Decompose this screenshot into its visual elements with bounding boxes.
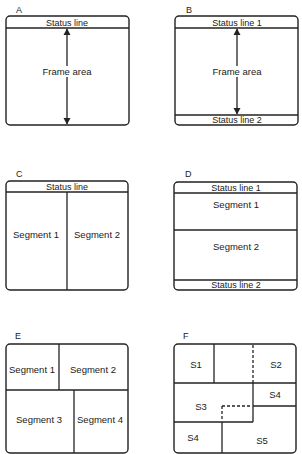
segment-1: Segment 1 (9, 364, 55, 375)
segment-s4-right: S4 (269, 389, 281, 400)
segment-3: Segment 3 (16, 414, 62, 425)
panel-label: B (186, 5, 192, 15)
segment-s4-bottom: S4 (187, 432, 199, 443)
panel-b: B B Status line 1 Status line 2 Frame ar… (175, 5, 298, 125)
segment-4: Segment 4 (77, 414, 123, 425)
frame-area-label: Frame area (212, 66, 262, 77)
status-line-2: Status line 2 (212, 115, 262, 125)
segment-2: Segment 2 (213, 241, 259, 252)
panel-label: D (185, 169, 192, 179)
arrow-up-icon (234, 29, 241, 36)
panel-d: D Status line 1 Segment 1 Segment 2 Stat… (174, 169, 297, 290)
segment-s3: S3 (195, 401, 207, 412)
segment-s2: S2 (270, 359, 282, 370)
segment-s1: S1 (190, 359, 202, 370)
status-line-1: Status line 1 (211, 183, 261, 193)
panel-label: F (183, 331, 189, 341)
panel-label: C (16, 169, 23, 179)
segment-1: Segment 1 (213, 199, 259, 210)
status-line: Status line (46, 182, 88, 192)
window-layouts-diagram: A Status line Frame area B B Status line… (0, 0, 302, 454)
segment-2: Segment 2 (70, 364, 116, 375)
screen-frame (6, 344, 128, 453)
segment-1: Segment 1 (13, 229, 59, 240)
segment-2: Segment 2 (74, 229, 120, 240)
status-line-2: Status line 2 (211, 280, 261, 290)
panel-label: E (15, 331, 21, 341)
arrow-down-icon (64, 118, 71, 125)
status-line: Status line (46, 18, 88, 28)
panel-f: F S1 S2 S3 S4 S4 S5 (174, 331, 296, 453)
arrow-up-icon (64, 29, 71, 36)
panel-a: A Status line Frame area (6, 5, 129, 125)
panel-c: C Status line Segment 1 Segment 2 (6, 169, 128, 290)
segment-s5: S5 (256, 435, 268, 446)
frame-area-label: Frame area (42, 66, 92, 77)
panel-e: E Segment 1 Segment 2 Segment 3 Segment … (6, 331, 128, 453)
status-line-1: Status line 1 (212, 18, 262, 28)
panel-label: A (16, 5, 22, 15)
arrow-down-icon (234, 108, 241, 115)
